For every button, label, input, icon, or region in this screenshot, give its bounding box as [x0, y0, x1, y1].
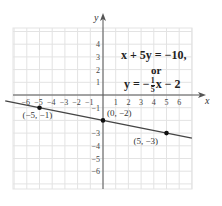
x-tick-label: −2 [72, 98, 81, 107]
data-point [164, 131, 169, 136]
point-label: (5, −3) [134, 136, 159, 146]
y-tick-label: 4 [96, 40, 100, 49]
point-label: (0, −2) [107, 108, 132, 118]
fraction: 15 [151, 77, 155, 94]
x-tick-label: 6 [177, 98, 181, 107]
x-tick-label: 5 [165, 98, 169, 107]
equation-lhs: y = − [124, 77, 150, 91]
y-tick-label: 1 [96, 78, 100, 87]
y-tick-label: −4 [91, 142, 100, 151]
coordinate-plane: xy−6−5−4−3−2−11234564321−1−3−4−5−6(−5, −… [0, 0, 222, 206]
x-tick-label: −3 [60, 98, 69, 107]
x-tick-label: −4 [47, 98, 56, 107]
equation-slope-intercept: y = −15x − 2 [124, 77, 181, 94]
x-tick-label: 3 [139, 98, 143, 107]
y-tick-label: −3 [91, 129, 100, 138]
y-axis-label: y [93, 12, 99, 23]
y-tick-label: 3 [96, 53, 100, 62]
x-axis-label: x [204, 95, 210, 106]
y-tick-label: −5 [91, 155, 100, 164]
data-point [101, 118, 106, 123]
x-tick-label: 1 [114, 98, 118, 107]
equation-rhs: x − 2 [156, 77, 181, 91]
x-tick-label: 2 [126, 98, 130, 107]
y-tick-label: 2 [96, 66, 100, 75]
equation-standard-form: x + 5y = −10, [121, 48, 187, 63]
y-tick-label: −6 [91, 167, 100, 176]
y-tick-label: −1 [91, 104, 100, 113]
equation-or: or [151, 64, 161, 76]
fraction-denominator: 5 [151, 86, 155, 94]
point-label: (−5, −1) [23, 110, 53, 120]
x-tick-label: 4 [152, 98, 156, 107]
